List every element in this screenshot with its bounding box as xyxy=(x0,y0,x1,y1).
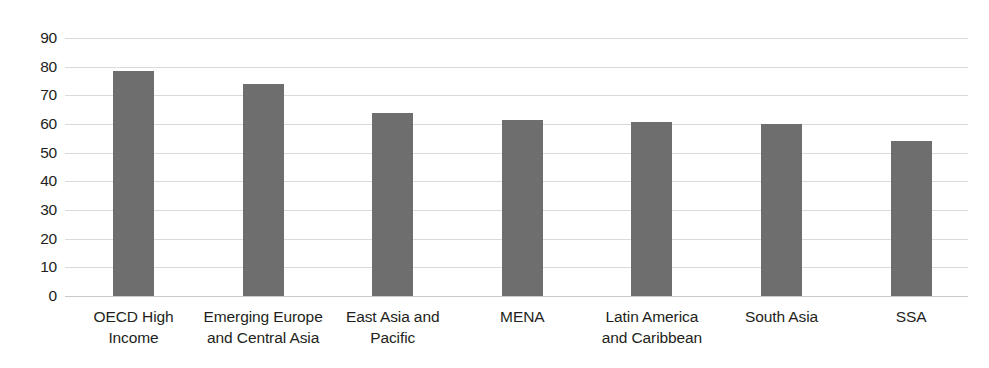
bar xyxy=(761,124,802,296)
y-axis-tick-label: 0 xyxy=(11,288,57,304)
y-axis-tick-label: 70 xyxy=(11,88,57,104)
y-axis-tick-label: 80 xyxy=(11,59,57,75)
x-axis-label: MENA xyxy=(447,306,597,327)
y-axis-tick-label: 50 xyxy=(11,145,57,161)
y-axis-tick-label: 10 xyxy=(11,260,57,276)
bars-layer xyxy=(65,38,968,296)
bar xyxy=(113,71,154,296)
x-axis-label: SSA xyxy=(836,306,986,327)
y-axis-tick-label: 90 xyxy=(11,30,57,46)
bar xyxy=(243,84,284,296)
gridline-0 xyxy=(65,296,968,297)
y-axis-tick-label: 60 xyxy=(11,116,57,132)
y-axis-tick-label: 30 xyxy=(11,202,57,218)
plot-area xyxy=(65,38,968,296)
x-axis-label: South Asia xyxy=(707,306,857,327)
x-axis-label: Emerging Europe and Central Asia xyxy=(188,306,338,348)
x-axis-label: Latin America and Caribbean xyxy=(577,306,727,348)
y-axis-tick-label: 20 xyxy=(11,231,57,247)
bar xyxy=(372,113,413,296)
bar xyxy=(502,120,543,296)
y-axis-tick-label: 40 xyxy=(11,174,57,190)
x-axis-labels: OECD High IncomeEmerging Europe and Cent… xyxy=(0,306,989,362)
x-axis-label: OECD High Income xyxy=(59,306,209,348)
x-axis-label: East Asia and Pacific xyxy=(318,306,468,348)
bar-chart: 0102030405060708090 OECD High IncomeEmer… xyxy=(0,0,989,368)
bar xyxy=(891,141,932,296)
bar xyxy=(631,122,672,296)
